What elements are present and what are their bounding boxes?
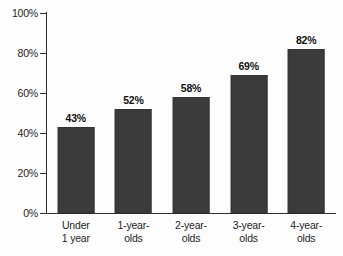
- x-axis-category-label: 3-year-olds: [220, 219, 278, 245]
- y-axis-tick-label: 20%: [0, 167, 38, 179]
- x-axis-category-line: 1 year: [47, 232, 105, 245]
- x-axis-line: [40, 213, 336, 214]
- bar-value-label: 69%: [238, 60, 258, 72]
- bar[interactable]: [57, 127, 94, 213]
- x-axis-category-label: 2-year-olds: [162, 219, 220, 245]
- x-axis-category-label: 1-year-olds: [105, 219, 163, 245]
- y-axis-tick-label-wrap: 100%: [0, 7, 38, 19]
- y-axis-tick-label-wrap: 80%: [0, 47, 38, 59]
- x-axis-category-line: olds: [105, 232, 163, 245]
- x-axis-category-line: olds: [162, 232, 220, 245]
- bar[interactable]: [230, 75, 267, 213]
- bar-slot: 43%: [47, 13, 105, 213]
- plot-area: 43%52%58%69%82%: [47, 13, 335, 213]
- bar-slot: 58%: [162, 13, 220, 213]
- y-axis-tick: [40, 93, 47, 94]
- y-axis-tick-label-wrap: 60%: [0, 87, 38, 99]
- y-axis-tick-label-wrap: 20%: [0, 167, 38, 179]
- x-axis-category-line: 3-year-: [220, 219, 278, 232]
- y-axis-tick-label: 40%: [0, 127, 38, 139]
- x-axis-category-label: 4-year-olds: [277, 219, 335, 245]
- y-axis-tick-label: 80%: [0, 47, 38, 59]
- bar-value-label: 52%: [123, 94, 143, 106]
- y-axis-tick: [40, 53, 47, 54]
- x-axis-category-line: olds: [220, 232, 278, 245]
- y-axis-tick-label-wrap: 0%: [0, 207, 38, 219]
- bar-slot: 69%: [220, 13, 278, 213]
- y-axis-tick: [40, 213, 47, 214]
- x-axis-category-line: 4-year-: [277, 219, 335, 232]
- y-axis-tick-label: 0%: [0, 207, 38, 219]
- y-axis-tick: [40, 13, 47, 14]
- x-axis-category-line: Under: [47, 219, 105, 232]
- bar[interactable]: [115, 109, 152, 213]
- bar-value-label: 58%: [181, 82, 201, 94]
- x-axis-category-line: olds: [277, 232, 335, 245]
- y-axis-tick: [40, 133, 47, 134]
- x-axis-category-label: Under1 year: [47, 219, 105, 245]
- x-axis-category-line: 1-year-: [105, 219, 163, 232]
- bar-slot: 82%: [277, 13, 335, 213]
- y-axis-tick-label: 100%: [0, 7, 38, 19]
- bar-value-label: 82%: [296, 34, 316, 46]
- bar-slot: 52%: [105, 13, 163, 213]
- bar[interactable]: [288, 49, 325, 213]
- bar-value-label: 43%: [66, 112, 86, 124]
- y-axis-tick: [40, 173, 47, 174]
- x-axis-category-line: 2-year-: [162, 219, 220, 232]
- y-axis-tick-label-wrap: 40%: [0, 127, 38, 139]
- bar[interactable]: [172, 97, 209, 213]
- bar-chart: 0%20%40%60%80%100% 43%52%58%69%82% Under…: [0, 0, 343, 256]
- y-axis-tick-label: 60%: [0, 87, 38, 99]
